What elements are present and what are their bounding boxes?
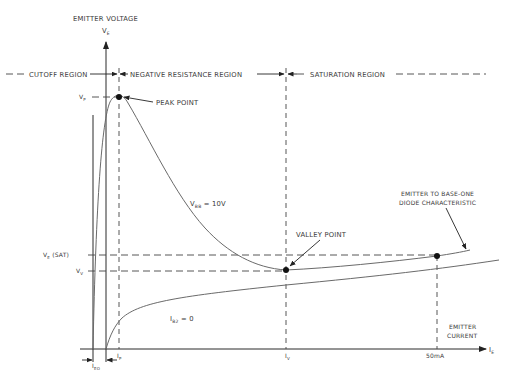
vbb-label: VBB = 10V	[190, 200, 226, 209]
ujt-characteristic-diagram: EMITTER VOLTAGE VE IE EMITTER CURRENT CU…	[0, 0, 511, 376]
vbb-10v-curve	[93, 95, 470, 349]
diode-label-line1: EMITTER TO BASE-ONE	[401, 190, 474, 197]
x-axis-title-line2: CURRENT	[447, 332, 477, 339]
diode-label-line2: DIODE CHARACTERISTIC	[399, 199, 476, 206]
iv-label: IV	[285, 352, 290, 361]
x-axis-title-line1: EMITTER	[449, 323, 476, 330]
vesat-label: VE (SAT)	[43, 251, 69, 260]
y-axis-symbol: VE	[102, 27, 110, 36]
ib2-zero-curve	[106, 260, 499, 349]
50ma-label: 50mA	[426, 352, 445, 359]
peak-point-leader	[124, 97, 153, 102]
ip-label: IP	[117, 352, 122, 361]
region-negative-resistance-label: NEGATIVE RESISTANCE REGION	[130, 71, 242, 79]
peak-point-label: PEAK POINT	[156, 99, 199, 107]
valley-point-label: VALLEY POINT	[296, 231, 347, 239]
diode-leader	[446, 208, 466, 249]
vv-label: VV	[76, 267, 83, 276]
region-saturation-label: SATURATION REGION	[310, 71, 385, 79]
50ma-point-marker	[434, 253, 440, 259]
y-axis-title: EMITTER VOLTAGE	[73, 15, 138, 23]
peak-point-marker	[116, 94, 122, 100]
valley-point-marker	[283, 267, 289, 273]
ib2-label: IB2 = 0	[170, 315, 194, 324]
ieo-label: IEO	[92, 362, 100, 371]
x-axis-symbol: IE	[489, 346, 494, 355]
vp-label: VP	[79, 93, 86, 102]
region-cutoff-label: CUTOFF REGION	[29, 71, 88, 79]
valley-point-leader	[290, 240, 320, 266]
